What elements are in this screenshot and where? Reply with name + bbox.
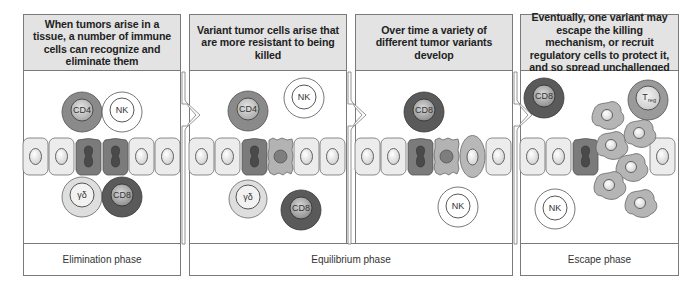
gamma-delta-t-cell: γδ	[229, 180, 267, 218]
epithelium-variety	[355, 136, 511, 178]
svg-text:NK: NK	[452, 201, 465, 211]
svg-text:NK: NK	[549, 203, 562, 213]
svg-text:γδ: γδ	[243, 192, 253, 202]
cd8-t-cell: CD8	[102, 177, 142, 217]
cd8-t-cell: CD8	[281, 190, 321, 230]
svg-text:CD4: CD4	[73, 105, 91, 115]
nk-cell: NK	[535, 189, 575, 229]
gamma-delta-t-cell: γδ	[62, 177, 102, 217]
svg-text:NK: NK	[116, 105, 129, 115]
nk-cell: NK	[284, 78, 324, 118]
diagram-artwork: CD4 NK γδ CD8 CD4 NK γδ	[0, 0, 695, 284]
svg-text:CD4: CD4	[239, 104, 257, 114]
cd4-t-cell: CD4	[62, 92, 102, 132]
svg-text:NK: NK	[298, 92, 311, 102]
cd8-t-cell: CD8	[404, 92, 444, 132]
cd8-t-cell: CD8	[524, 78, 564, 118]
epithelium-elimination	[23, 138, 180, 175]
svg-text:γδ: γδ	[77, 190, 87, 200]
svg-text:reg: reg	[648, 97, 656, 103]
epithelium-variant	[189, 138, 345, 175]
cd4-t-cell: CD4	[228, 91, 268, 131]
svg-text:CD8: CD8	[415, 105, 433, 115]
nk-cell: NK	[102, 92, 142, 132]
nk-cell: NK	[438, 187, 478, 227]
svg-text:CD8: CD8	[292, 203, 310, 213]
svg-text:CD8: CD8	[113, 190, 131, 200]
treg-cell: T reg	[628, 80, 668, 120]
svg-text:CD8: CD8	[535, 91, 553, 101]
